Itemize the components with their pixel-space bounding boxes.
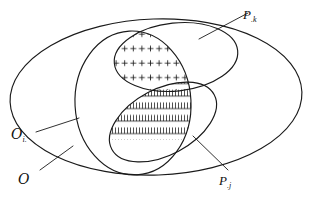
label-lower-block: P.j [219, 172, 231, 190]
leader-line-o-i [36, 118, 79, 132]
label-inner-set-base: O [11, 126, 22, 142]
leader-line-p-k [199, 13, 248, 39]
label-outer-set: O [18, 171, 29, 189]
label-inner-set: Oi. [11, 126, 27, 144]
set-diagram [0, 0, 310, 204]
label-inner-set-subscript: i. [22, 135, 26, 144]
label-upper-block-subscript: .k [251, 15, 257, 24]
leader-line-o [40, 146, 73, 170]
label-upper-block: P.k [243, 6, 257, 24]
figure-canvas: P.k P.j Oi. O [0, 0, 310, 204]
lower-intersection-hatch [95, 82, 205, 140]
label-lower-block-subscript: .j [227, 181, 231, 190]
label-lower-block-base: P [219, 173, 227, 188]
label-upper-block-base: P [243, 7, 251, 22]
leader-line-p-j [193, 136, 228, 170]
label-outer-set-base: O [18, 171, 29, 187]
